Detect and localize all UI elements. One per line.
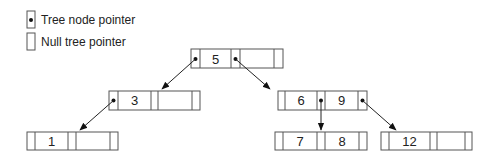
legend-item-null-tree-pointer: Null tree pointer [27,33,126,50]
tree-diagram: Tree node pointer Null tree pointer 5 3 [0,0,495,159]
tree-node-root: 5 [191,49,283,68]
pointer-dot-icon [29,18,33,22]
legend-item-tree-node-pointer: Tree node pointer [27,11,135,28]
tree-node-3: 3 [109,91,200,110]
node-key: 3 [131,93,138,108]
tree-node-7-8: 7 8 [275,132,367,150]
node-key: 7 [296,134,303,149]
node-key: 6 [297,93,304,108]
node-key: 1 [48,134,55,149]
tree-node-6-9: 6 9 [278,91,367,110]
edge-root-to-3 [162,59,196,89]
edge-6-9-to-12 [363,101,397,131]
node-key: 8 [338,134,345,149]
null-pointer-cell-icon [27,33,35,50]
node-key: 5 [212,52,219,67]
tree-node-12: 12 [381,132,472,150]
legend-label: Null tree pointer [41,35,126,49]
tree-node-1: 1 [27,132,118,150]
legend-label: Tree node pointer [41,13,135,27]
edge-3-to-1 [80,101,114,131]
node-key: 12 [402,134,416,149]
legend: Tree node pointer Null tree pointer [27,11,135,50]
node-key: 9 [338,93,345,108]
